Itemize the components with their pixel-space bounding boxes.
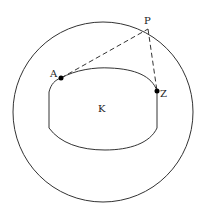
label-z: Z	[160, 88, 167, 99]
diagram-canvas: P A Z K	[0, 0, 203, 215]
point-a	[59, 76, 64, 81]
dashed-line-a-p	[61, 29, 148, 78]
label-a: A	[49, 68, 58, 79]
label-k: K	[98, 103, 106, 114]
label-p: P	[144, 15, 151, 26]
dashed-line-p-z	[148, 29, 157, 91]
point-z	[155, 89, 160, 94]
